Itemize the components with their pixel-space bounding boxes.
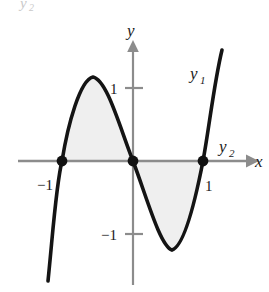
graph-canvas: y 2 y x y 1 y 2 1 −1 −1 1 [0,0,269,292]
clipped-label-top: y [18,0,27,11]
tick-label-y-positive: 1 [110,81,118,97]
x-axis-label: x [254,152,263,171]
point-intersection-right [198,156,209,167]
tick-label-y-negative: −1 [101,227,117,243]
tick-label-x-negative: −1 [37,177,53,193]
clipped-label-top-sub: 2 [29,2,34,13]
curve-label-y1: y [188,64,198,83]
figure-container: y 2 y x y 1 y 2 1 −1 −1 1 [0,0,269,292]
point-intersection-left [57,156,68,167]
curve-label-y1-sub: 1 [200,74,206,86]
curve-label-y2-sub: 2 [229,147,235,159]
point-intersection-origin [128,156,139,167]
y-axis-label: y [125,21,135,40]
tick-label-x-positive: 1 [205,178,213,194]
curve-label-y2: y [217,137,227,156]
